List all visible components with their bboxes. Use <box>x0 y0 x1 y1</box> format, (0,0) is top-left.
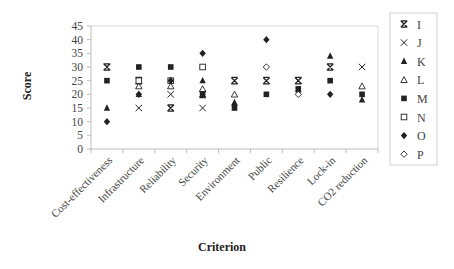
y-axis-title: Score <box>20 71 34 100</box>
x-marker-icon <box>359 64 365 70</box>
y-tick-label: 30 <box>72 61 84 73</box>
y-tick-label: 10 <box>72 116 84 128</box>
x-marker-icon <box>168 91 174 97</box>
asterisk-x-marker-icon <box>168 105 174 111</box>
x-marker-icon <box>199 105 205 111</box>
square-filled-marker-icon <box>200 92 206 98</box>
triangle-filled-marker-icon <box>104 104 110 110</box>
y-axis: 051015202530354045 <box>72 20 92 155</box>
y-tick-label: 35 <box>72 47 84 59</box>
y-tick-label: 0 <box>77 143 83 155</box>
x-axis: Cost-effectivenessInfrastructureReliabil… <box>49 149 378 220</box>
legend-label: L <box>417 73 424 87</box>
diamond-filled-marker-icon <box>199 50 205 57</box>
x-marker-icon <box>136 105 142 111</box>
x-marker-icon <box>295 77 301 83</box>
scatter-chart: 051015202530354045 Cost-effectivenessInf… <box>0 0 454 269</box>
diamond-filled-marker-icon <box>263 36 269 43</box>
square-filled-marker-icon <box>359 92 365 98</box>
legend-label: P <box>417 148 424 162</box>
square-filled-marker-icon <box>401 96 407 102</box>
legend: IJKLMNOP <box>390 13 437 165</box>
legend-label: O <box>417 129 426 143</box>
triangle-filled-marker-icon <box>327 52 333 58</box>
triangle-filled-marker-icon <box>199 77 205 83</box>
asterisk-x-marker-icon <box>327 64 333 70</box>
y-tick-label: 5 <box>77 129 83 141</box>
legend-label: J <box>417 36 422 50</box>
square-filled-marker-icon <box>264 92 270 98</box>
legend-label: N <box>417 111 426 125</box>
triangle-open-marker-icon <box>231 91 237 97</box>
asterisk-x-marker-icon <box>231 77 237 83</box>
triangle-open-marker-icon <box>199 86 205 92</box>
x-axis-title: Criterion <box>198 240 246 254</box>
triangle-open-marker-icon <box>359 83 365 89</box>
diamond-filled-marker-icon <box>104 118 110 125</box>
diamond-open-marker-icon <box>263 64 269 70</box>
y-tick-label: 15 <box>72 102 84 114</box>
y-tick-label: 20 <box>72 88 84 100</box>
square-filled-marker-icon <box>327 78 333 84</box>
x-marker-icon <box>104 64 110 70</box>
x-category-label: Public <box>245 154 273 182</box>
square-filled-marker-icon <box>104 78 110 84</box>
square-filled-marker-icon <box>168 64 174 70</box>
y-tick-label: 45 <box>72 20 84 32</box>
diamond-filled-marker-icon <box>327 91 333 98</box>
square-open-marker-icon <box>401 114 407 120</box>
legend-label: M <box>417 92 428 106</box>
y-tick-label: 25 <box>72 75 84 87</box>
legend-label: I <box>417 18 421 32</box>
square-open-marker-icon <box>200 64 206 70</box>
plot-area <box>91 26 378 149</box>
square-filled-marker-icon <box>136 64 142 70</box>
asterisk-x-marker-icon <box>263 77 269 83</box>
legend-label: K <box>417 55 426 69</box>
y-tick-label: 40 <box>72 34 84 46</box>
square-open-marker-icon <box>136 78 142 84</box>
